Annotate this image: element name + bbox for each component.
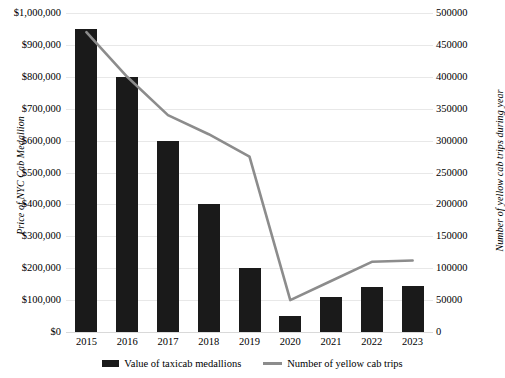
y-tick-label-right: 250000	[436, 168, 496, 178]
x-tick-label-2019: 2019	[230, 336, 270, 347]
x-tick-label-2022: 2022	[352, 336, 392, 347]
x-tick-label-2017: 2017	[148, 336, 188, 347]
y-tick-label-left: $600,000	[0, 136, 61, 146]
x-tick-label-2016: 2016	[107, 336, 147, 347]
gridline	[66, 332, 433, 333]
y-tick-label-right: 150000	[436, 231, 496, 241]
y-tick-label-left: $500,000	[0, 168, 61, 178]
y-tick-label-left: $300,000	[0, 231, 61, 241]
y-tick-label-left: $0	[0, 327, 61, 337]
x-tick-label-2018: 2018	[189, 336, 229, 347]
y-axis-right: 0500001000001500002000002500003000003500…	[436, 0, 496, 378]
line-swatch-icon	[263, 362, 282, 365]
y-tick-label-left: $1,000,000	[0, 8, 61, 18]
x-tick-label-2015: 2015	[66, 336, 106, 347]
y-tick-label-left: $400,000	[0, 199, 61, 209]
plot-area	[66, 13, 433, 332]
y-tick-label-left: $900,000	[0, 40, 61, 50]
bar-swatch-icon	[102, 360, 119, 367]
y-tick-label-right: 400000	[436, 72, 496, 82]
y-tick-label-right: 0	[436, 327, 496, 337]
trips-line	[86, 32, 412, 300]
x-tick-label-2021: 2021	[311, 336, 351, 347]
chart-legend: Value of taxicab medallions Number of ye…	[0, 358, 505, 369]
y-tick-label-right: 450000	[436, 40, 496, 50]
line-series	[66, 13, 433, 332]
y-tick-label-left: $800,000	[0, 72, 61, 82]
combo-chart: Price of NYC Cab Medallion Number of yel…	[0, 0, 505, 378]
y-tick-label-right: 50000	[436, 295, 496, 305]
x-tick-label-2023: 2023	[393, 336, 433, 347]
x-axis: 201520162017201820192020202120222023	[66, 336, 433, 352]
y-tick-label-right: 100000	[436, 263, 496, 273]
x-tick-label-2020: 2020	[270, 336, 310, 347]
legend-item-trips: Number of yellow cab trips	[263, 358, 402, 369]
legend-item-medallions: Value of taxicab medallions	[102, 358, 241, 369]
y-tick-label-right: 200000	[436, 199, 496, 209]
y-axis-left: $0$100,000$200,000$300,000$400,000$500,0…	[0, 0, 61, 378]
legend-label-trips: Number of yellow cab trips	[287, 358, 402, 369]
y-tick-label-right: 300000	[436, 136, 496, 146]
y-tick-label-left: $200,000	[0, 263, 61, 273]
y-tick-label-right: 500000	[436, 8, 496, 18]
y-tick-label-left: $100,000	[0, 295, 61, 305]
y-tick-label-left: $700,000	[0, 104, 61, 114]
y-tick-label-right: 350000	[436, 104, 496, 114]
legend-label-medallions: Value of taxicab medallions	[124, 358, 241, 369]
